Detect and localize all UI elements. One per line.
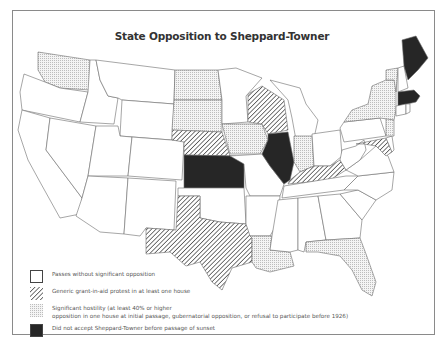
state-maine — [402, 36, 428, 80]
state-new-jersey — [386, 118, 394, 136]
map-title: State Opposition to Sheppard-Towner — [0, 30, 444, 42]
state-florida — [306, 238, 376, 296]
state-iowa — [222, 124, 268, 154]
legend-swatch-protest — [30, 287, 43, 300]
legend-label-line1: Significant hostility (at least 40% or h… — [52, 304, 348, 312]
state-new-york — [344, 80, 396, 122]
state-wyoming — [120, 100, 174, 140]
state-colorado — [128, 137, 184, 180]
state-new-mexico — [124, 178, 176, 236]
legend-item-protest: Generic grant-in-aid protest in at least… — [30, 287, 190, 300]
state-north-dakota — [174, 70, 222, 100]
state-south-dakota — [172, 100, 222, 132]
legend-swatch-pass — [30, 270, 43, 283]
state-indiana — [294, 136, 314, 172]
state-ohio — [312, 130, 342, 166]
legend-swatch-rejected — [30, 324, 43, 337]
legend-item-hostility: Significant hostility (at least 40% or h… — [30, 304, 348, 320]
legend-swatch-hostility — [30, 304, 43, 317]
state-massachusetts — [398, 90, 420, 106]
legend-label: Passes without significant opposition — [52, 270, 155, 278]
legend-label: Did not accept Sheppard-Towner before pa… — [52, 324, 215, 332]
legend-label: Generic grant-in-aid protest in at least… — [52, 287, 190, 295]
legend-label-line2: opposition in one house at initial passa… — [52, 312, 348, 320]
state-connecticut — [396, 104, 406, 116]
state-rhode-island — [406, 104, 410, 114]
legend-item-rejected: Did not accept Sheppard-Towner before pa… — [30, 324, 215, 337]
legend-item-pass: Passes without significant opposition — [30, 270, 155, 283]
legend-label: Significant hostility (at least 40% or h… — [52, 304, 348, 320]
state-kansas — [184, 155, 244, 188]
